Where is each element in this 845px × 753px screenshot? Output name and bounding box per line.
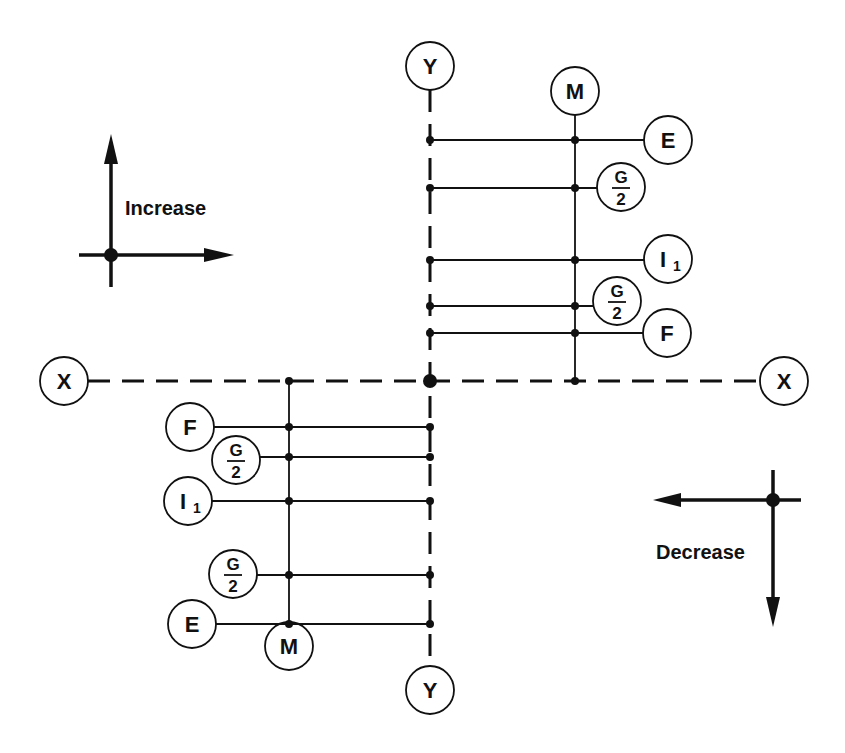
x-left-label: X <box>57 369 72 394</box>
increase-legend: Increase <box>79 134 234 287</box>
x-axis-left-node: X <box>40 357 88 405</box>
svg-text:G: G <box>610 282 623 301</box>
svg-text:M: M <box>280 634 298 659</box>
upper-item-i1: I 1 <box>426 235 692 283</box>
increase-label: Increase <box>125 197 206 219</box>
svg-text:2: 2 <box>616 190 625 209</box>
arrow-down-icon <box>766 597 780 627</box>
svg-text:1: 1 <box>673 258 681 274</box>
upper-right-group: M E G 2 I 1 <box>426 67 692 385</box>
svg-text:2: 2 <box>231 463 240 482</box>
arrow-up-icon <box>104 134 118 164</box>
decrease-legend: Decrease <box>653 470 801 627</box>
svg-text:1: 1 <box>193 500 201 516</box>
svg-text:F: F <box>660 321 673 346</box>
dimension-chain-diagram: X X Y Y M E G 2 <box>0 0 845 753</box>
y-axis-bottom-node: Y <box>406 666 454 714</box>
svg-text:2: 2 <box>228 577 237 596</box>
upper-item-f: F <box>426 309 691 357</box>
upper-member-label: M <box>566 79 584 104</box>
upper-item-e: E <box>426 116 692 164</box>
svg-text:G: G <box>614 168 627 187</box>
svg-text:E: E <box>661 128 676 153</box>
upper-item-g-half-1: G 2 <box>426 163 645 211</box>
lower-left-group: M F G 2 I 1 <box>164 377 434 670</box>
svg-text:G: G <box>226 555 239 574</box>
svg-text:2: 2 <box>612 304 621 323</box>
x-axis-right-node: X <box>760 357 808 405</box>
lower-item-g-half-1: G 2 <box>212 436 434 484</box>
x-right-label: X <box>777 369 792 394</box>
svg-text:E: E <box>185 612 200 637</box>
y-top-label: Y <box>423 54 438 79</box>
svg-text:F: F <box>183 415 196 440</box>
y-axis-top-node: Y <box>406 42 454 90</box>
lower-member-node: M <box>265 622 313 670</box>
svg-text:G: G <box>229 441 242 460</box>
lower-item-g-half-2: G 2 <box>209 550 434 598</box>
upper-item-g-half-2: G 2 <box>426 277 641 325</box>
svg-text:I: I <box>180 489 186 514</box>
lower-item-i1: I 1 <box>164 477 434 525</box>
y-bottom-label: Y <box>423 678 438 703</box>
decrease-label: Decrease <box>656 541 745 563</box>
upper-member-node: M <box>551 67 599 115</box>
svg-text:I: I <box>660 247 666 272</box>
arrow-left-icon <box>653 493 681 507</box>
arrow-right-icon <box>204 248 234 262</box>
lower-item-f: F <box>166 403 434 451</box>
origin-dot <box>423 374 437 388</box>
